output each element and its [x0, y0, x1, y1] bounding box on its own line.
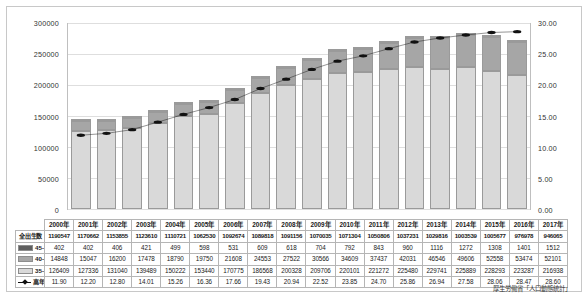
table-cell: 1110721 [161, 231, 190, 242]
table-cell: 42031 [393, 254, 422, 265]
table-year-header: 2003年 [132, 220, 161, 231]
table-cell: 976978 [509, 231, 538, 242]
legend-swatch-icon [18, 256, 33, 262]
table-cell: 153440 [190, 265, 219, 276]
table-cell: 1308 [480, 242, 509, 253]
table-cell: 1050806 [364, 231, 393, 242]
table-cell: 21608 [219, 254, 248, 265]
rate-line-marker [282, 77, 290, 80]
table-row-label: 高年妊娠率 [16, 277, 45, 288]
rate-line-marker [333, 59, 341, 62]
left-axis-tick: 100000 [34, 143, 59, 152]
table-corner-cell [16, 220, 45, 231]
legend-label: 高年妊娠率 [33, 277, 45, 287]
chart-screenshot: 050000100000150000200000250000300000 0.0… [0, 0, 588, 298]
rate-line-marker [154, 120, 162, 123]
data-table-region: 2000年2001年2002年2003年2004年2005年2006年2007年… [15, 219, 575, 288]
table-cell: 18790 [161, 254, 190, 265]
table-row: 40-4414848150471620017478187901975021608… [16, 254, 568, 265]
left-axis-tick: 0 [55, 206, 59, 215]
legend-swatch-icon [18, 245, 33, 251]
legend-label: 45- [35, 243, 44, 253]
table-cell: 12.80 [103, 277, 132, 288]
table-cell: 1071304 [335, 231, 364, 242]
table-cell: 220101 [335, 265, 364, 276]
table-cell: 598 [190, 242, 219, 253]
table-cell: 170775 [219, 265, 248, 276]
right-axis-tick: 10.00 [538, 143, 557, 152]
table-year-header: 2001年 [74, 220, 103, 231]
table-cell: 127336 [74, 265, 103, 276]
rate-line-marker [179, 113, 187, 116]
left-axis-tick: 50000 [38, 174, 59, 183]
table-cell: 52101 [538, 254, 567, 265]
right-axis-tick: 15.00 [538, 112, 557, 121]
table-cell: 24.70 [364, 277, 393, 288]
legend-label: 40-44 [35, 254, 45, 264]
table-cell: 209706 [306, 265, 335, 276]
table-cell: 216938 [538, 265, 567, 276]
table-cell: 20.94 [277, 277, 306, 288]
right-axis-tick: 20.00 [538, 81, 557, 90]
table-cell: 402 [74, 242, 103, 253]
table-row: 全出生数119054711706621153855112361011107211… [16, 231, 568, 242]
table-row: 35-3912640912733613104013948915022215344… [16, 265, 568, 276]
table-cell: 37437 [364, 254, 393, 265]
table-cell: 1123610 [132, 231, 161, 242]
legend-line-marker-icon [18, 280, 31, 285]
table-cell: 1401 [509, 242, 538, 253]
table-year-header: 2005年 [190, 220, 219, 231]
table-cell: 1091156 [277, 231, 306, 242]
table-year-header: 2006年 [219, 220, 248, 231]
table-cell: 531 [219, 242, 248, 253]
table-cell: 421 [132, 242, 161, 253]
rate-line-marker [102, 132, 110, 135]
table-cell: 1190547 [45, 231, 74, 242]
table-cell: 1037231 [393, 231, 422, 242]
rate-line-marker [462, 33, 470, 36]
table-cell: 30566 [306, 254, 335, 265]
table-cell: 1005677 [480, 231, 509, 242]
table-body: 全出生数119054711706621153855112361011107211… [16, 231, 568, 288]
table-cell: 24553 [248, 254, 277, 265]
table-header-row: 2000年2001年2002年2003年2004年2005年2006年2007年… [16, 220, 568, 231]
table-year-header: 2008年 [277, 220, 306, 231]
table-cell: 46546 [422, 254, 451, 265]
table-cell: 139489 [132, 265, 161, 276]
rate-line-marker [385, 47, 393, 50]
table-cell: 49606 [451, 254, 480, 265]
table-cell: 946065 [538, 231, 567, 242]
legend-swatch-icon [18, 268, 33, 274]
table-year-header: 2009年 [306, 220, 335, 231]
table-cell: 1003539 [451, 231, 480, 242]
table-cell: 1170662 [74, 231, 103, 242]
source-attribution: 厚生労働省「人口動態統計」 [493, 284, 571, 293]
table-cell: 27.58 [451, 277, 480, 288]
right-axis-tick: 25.00 [538, 50, 557, 59]
table-cell: 52558 [480, 254, 509, 265]
table-cell: 200328 [277, 265, 306, 276]
table-cell: 1092674 [219, 231, 248, 242]
table-cell: 223287 [509, 265, 538, 276]
rate-line-marker [231, 98, 239, 101]
table-row-label: 40-44 [16, 254, 45, 265]
table-row-label: 全出生数 [16, 231, 45, 242]
table-cell: 14.01 [132, 277, 161, 288]
table-cell: 1029816 [422, 231, 451, 242]
table-year-header: 2017年 [538, 220, 567, 231]
data-table: 2000年2001年2002年2003年2004年2005年2006年2007年… [15, 219, 568, 288]
table-row: 高年妊娠率11.9012.2012.8014.0115.2616.3617.66… [16, 277, 568, 288]
rate-line-marker [359, 54, 367, 57]
plot-area [67, 23, 531, 210]
table-cell: 16.36 [190, 277, 219, 288]
rate-line-marker [513, 30, 521, 33]
table-cell: 186568 [248, 265, 277, 276]
table-cell: 19.43 [248, 277, 277, 288]
left-axis-tick: 250000 [34, 50, 59, 59]
rate-line-marker [436, 36, 444, 39]
table-cell: 150222 [161, 265, 190, 276]
right-axis-tick: 0.00 [538, 206, 553, 215]
right-percent-axis: 0.005.0010.0015.0020.0025.0030.00 [533, 23, 575, 210]
table-cell: 25.86 [393, 277, 422, 288]
rate-line-series [68, 23, 530, 209]
